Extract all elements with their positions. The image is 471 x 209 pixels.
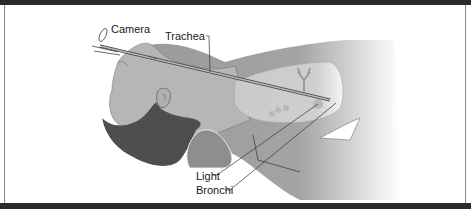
label-light: Light	[196, 171, 220, 182]
label-bronchi: Bronchi	[196, 185, 233, 196]
frame-border-bottom	[0, 203, 471, 209]
label-trachea: Trachea	[165, 31, 205, 42]
bronchoscopy-illustration	[0, 0, 471, 209]
diagram-frame: Camera Trachea Light Bronchi	[0, 0, 471, 209]
label-camera: Camera	[111, 24, 150, 35]
